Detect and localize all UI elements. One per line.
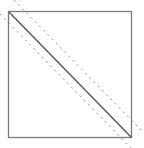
diagram-canvas [0, 0, 144, 148]
upper-dashed-line [14, 0, 144, 133]
main-diagonal-line [9, 12, 131, 137]
lower-dashed-line [0, 14, 131, 148]
